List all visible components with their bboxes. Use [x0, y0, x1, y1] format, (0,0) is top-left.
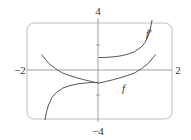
chart-canvas: 4 −4 −2 2 f′ f [0, 0, 191, 140]
f-prime-curve-segment-1 [99, 20, 153, 58]
f-prime-curve-label: f′ [146, 27, 152, 39]
y-min-label: −4 [92, 125, 104, 137]
y-max-label: 4 [95, 5, 101, 17]
x-min-label: −2 [14, 64, 26, 76]
f-curve [41, 54, 155, 83]
f-curve-label: f [122, 82, 127, 94]
x-max-label: 2 [175, 64, 181, 76]
f-prime-curve-segment-0 [45, 83, 99, 121]
